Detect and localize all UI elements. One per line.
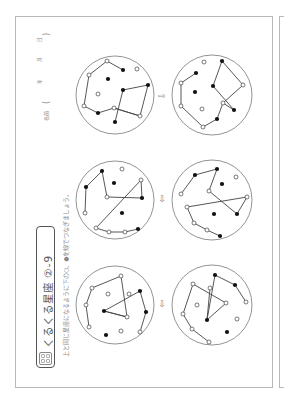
answer-stars-3 — [181, 273, 248, 344]
model-stars-1 — [82, 59, 150, 124]
answer-circle-1 — [172, 55, 252, 135]
arrow-icon-3: ⇨ — [157, 300, 167, 308]
answer-stars-1 — [179, 59, 245, 129]
answer-circle-3 — [172, 265, 252, 345]
puzzle-area: ⇨ ⇨ ⇨ — [0, 0, 284, 397]
arrow-icon-2: ⇨ — [157, 195, 167, 203]
arrow-icon-1: ⇨ — [158, 91, 166, 101]
model-stars-2 — [83, 167, 144, 234]
model-stars-3 — [84, 274, 148, 337]
answer-circle-2 — [172, 160, 252, 240]
